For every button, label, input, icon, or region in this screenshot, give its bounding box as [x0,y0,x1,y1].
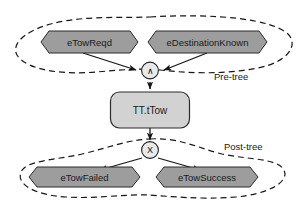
node-etowfailed[interactable]: eTowFailed [29,167,140,187]
node-etowfailed-label: eTowFailed [60,172,108,183]
node-etowsuccess[interactable]: eTowSuccess [156,167,258,187]
node-etowsuccess-label: eTowSuccess [178,172,236,183]
node-edestinationknown-label: eDestinationKnown [167,37,249,48]
xor-gate-symbol: X [147,145,153,155]
node-etowreqd[interactable]: eTowReqd [41,31,138,53]
post-tree-label: Post-tree [224,141,263,152]
node-process-label: TT.tTow [133,105,168,116]
edge-edestinationknown-to-and [164,53,207,70]
node-etowreqd-label: eTowReqd [67,37,112,48]
node-process-tttow[interactable]: TT.tTow [111,92,190,128]
node-edestinationknown[interactable]: eDestinationKnown [148,31,267,53]
diagram-svg: Pre-tree Post-tree eTowReqd eDestination… [0,0,304,212]
pre-tree-label: Pre-tree [214,71,248,82]
xor-gate[interactable]: X [142,142,159,159]
and-gate-symbol: ∧ [147,66,154,76]
and-gate[interactable]: ∧ [142,62,159,79]
diagram-canvas: Pre-tree Post-tree eTowReqd eDestination… [0,0,304,212]
edge-etowreqd-to-and [83,53,136,70]
